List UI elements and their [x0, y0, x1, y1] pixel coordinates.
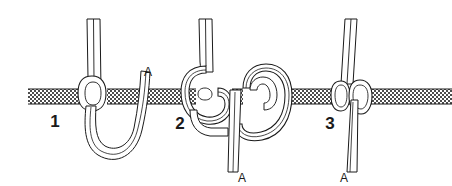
step-3-left-loop [331, 81, 350, 111]
step-2-left-loop [181, 66, 232, 124]
step-number-1: 1 [50, 112, 59, 131]
knot-diagram-figure: 1 A [0, 0, 452, 186]
end-label-a-step-3: A [340, 171, 348, 185]
rope-inner-line [206, 19, 207, 66]
step-3-working-end [347, 100, 358, 172]
step-2-working-end [228, 90, 241, 172]
end-label-a-step-1: A [144, 65, 152, 79]
rope-crossing-nub [198, 88, 212, 100]
rope-left-oval-inner [335, 85, 347, 107]
rope-inner-line [94, 19, 95, 80]
rope-wrap-inner [85, 82, 101, 105]
knot-diagram-canvas: 1 A [0, 0, 452, 186]
end-label-a-step-2: A [238, 171, 246, 185]
step-number-2: 2 [175, 114, 184, 133]
step-3-group: 3 A [325, 19, 372, 185]
step-number-3: 3 [325, 114, 334, 133]
step-2-standing-part [199, 19, 213, 72]
step-3-standing-part [341, 19, 357, 84]
